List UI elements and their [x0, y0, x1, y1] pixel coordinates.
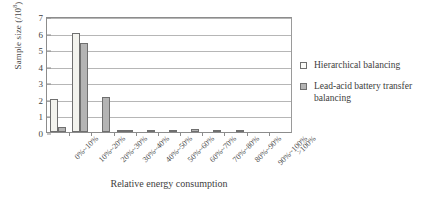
bar — [125, 130, 133, 132]
bar-groups — [47, 18, 291, 132]
bar — [236, 130, 244, 132]
y-axis-title: Sample size (/108) — [12, 0, 23, 97]
bar-group — [269, 18, 291, 132]
bar-chart-figure: Sample size (/108) 01234567 0%~10%10%~20… — [0, 0, 444, 204]
chart-legend: Hierarchical balancingLead-acid battery … — [300, 60, 442, 114]
bar — [50, 99, 58, 132]
bar-group — [47, 18, 69, 132]
y-axis-tick-label: 5 — [39, 46, 48, 56]
y-axis-tick-label: 6 — [39, 30, 48, 40]
y-axis-tick-label: 4 — [39, 63, 48, 73]
bar — [213, 130, 221, 132]
bar — [191, 129, 199, 132]
x-axis-category-labels: 0%~10%10%~20%20%~30%30%~40%40%~50%50%~60… — [46, 134, 292, 174]
bar — [72, 33, 80, 132]
bar — [117, 130, 125, 132]
bar — [147, 130, 155, 132]
bar-group — [69, 18, 91, 132]
bar-group — [158, 18, 180, 132]
legend-label: Lead-acid battery transfer balancing — [314, 81, 442, 105]
bar-group — [202, 18, 224, 132]
bar-group — [247, 18, 269, 132]
y-axis-title-exponent: 8 — [12, 5, 18, 8]
plot-area: 01234567 — [46, 17, 292, 133]
bar-group — [91, 18, 113, 132]
bar — [80, 43, 88, 132]
legend-item[interactable]: Hierarchical balancing — [300, 60, 442, 72]
bar-group — [225, 18, 247, 132]
x-axis-title: Relative energy consumption — [46, 178, 292, 189]
bar-group — [114, 18, 136, 132]
y-axis-tick-label: 1 — [39, 112, 48, 122]
bar-group — [136, 18, 158, 132]
y-axis-tick-label: 7 — [39, 13, 48, 23]
bar — [102, 97, 110, 132]
bar — [58, 127, 66, 132]
bar-group — [180, 18, 202, 132]
y-axis-title-suffix: ) — [13, 2, 23, 5]
y-axis-title-text: Sample size (/10 — [13, 8, 23, 70]
legend-swatch-filled-square — [300, 83, 307, 90]
legend-label: Hierarchical balancing — [314, 60, 400, 72]
y-axis-tick-label: 2 — [39, 96, 48, 106]
y-axis-tick-label: 3 — [39, 79, 48, 89]
legend-swatch-open-square — [300, 62, 307, 69]
bar — [169, 130, 177, 132]
legend-item[interactable]: Lead-acid battery transfer balancing — [300, 81, 442, 105]
